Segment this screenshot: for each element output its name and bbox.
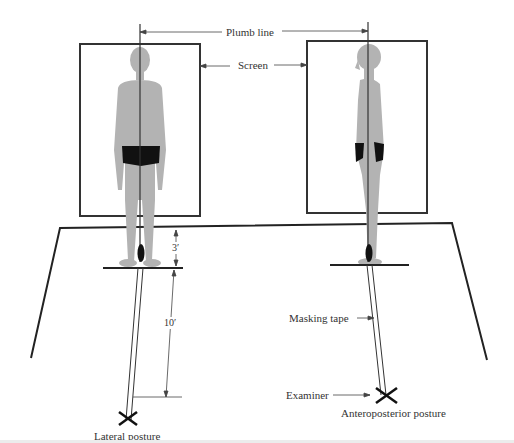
screen-label: Screen [238,59,268,71]
examiner-mark-right [376,388,397,403]
shorts-left [122,146,160,166]
examiner-mark-left [119,412,137,425]
examiner-arrow [333,393,370,397]
masking-tape-arrow [357,316,374,320]
ten-feet-label: 10′ [164,317,176,329]
plumb-line-label: Plumb line [226,26,274,38]
floor-outline [31,223,487,360]
anteroposterior-posture-label: Anteroposterior posture [341,407,446,419]
three-feet-label: 3′ [172,242,179,254]
plumb-bob-left [138,244,145,262]
masking-tape-label: Masking tape [289,312,349,324]
dimension-10ft [133,270,182,397]
examiner-label: Examiner [286,389,329,401]
plumb-bob-right [366,244,373,262]
